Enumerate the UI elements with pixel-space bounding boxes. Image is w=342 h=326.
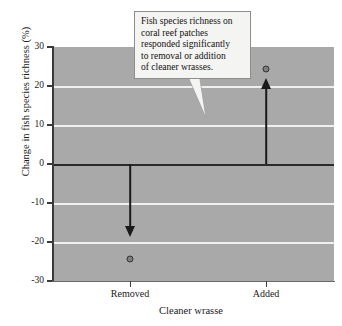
y-tick-label-30: 30 — [35, 42, 45, 52]
callout-tail-icon — [186, 72, 220, 120]
callout-line-2: coral reef patches — [141, 28, 245, 40]
gridline-10 — [54, 125, 334, 127]
x-tick-added — [266, 281, 267, 287]
y-tick-0 — [47, 163, 53, 165]
y-tick-10 — [47, 124, 53, 126]
data-point-removed — [127, 256, 134, 263]
x-axis-title: Cleaner wrasse — [0, 305, 342, 316]
y-tick-neg10 — [47, 202, 53, 204]
callout-line-4: to removal or addition — [141, 51, 245, 63]
arrow-shaft-added — [265, 88, 267, 164]
arrow-shaft-removed — [129, 164, 131, 227]
y-tick-label-20: 20 — [35, 81, 45, 91]
y-axis-title: Change in fish species richness (%) — [20, 0, 31, 217]
y-tick-label-10: 10 — [35, 120, 45, 130]
gridline-neg20 — [54, 242, 334, 244]
y-tick-neg20 — [47, 241, 53, 243]
annotation-callout: Fish species richness on coral reef patc… — [134, 11, 251, 79]
callout-line-1: Fish species richness on — [141, 16, 245, 28]
x-tick-label-added: Added — [253, 288, 280, 299]
callout-line-3: responded significantly — [141, 39, 245, 51]
chart-figure: 30 20 10 0 -10 -20 -30 Removed Added Cha… — [0, 0, 342, 326]
y-tick-label-neg20: -20 — [31, 237, 44, 247]
x-tick-removed — [130, 281, 131, 287]
x-tick-label-removed: Removed — [111, 288, 149, 299]
arrow-head-removed — [125, 226, 135, 237]
data-point-added — [263, 66, 270, 73]
callout-line-5: of cleaner wrasses. — [141, 62, 245, 74]
arrow-head-added — [261, 78, 271, 89]
y-tick-label-0: 0 — [39, 159, 44, 169]
zero-line — [54, 164, 334, 166]
y-tick-label-neg10: -10 — [31, 198, 44, 208]
y-tick-label-neg30: -30 — [31, 276, 44, 286]
x-axis-spine — [52, 281, 335, 282]
gridline-neg10 — [54, 203, 334, 205]
y-tick-20 — [47, 85, 53, 87]
y-tick-30 — [47, 46, 53, 48]
